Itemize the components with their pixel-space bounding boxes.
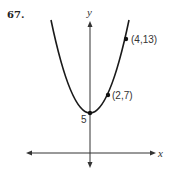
- x-axis-label: x: [157, 147, 163, 159]
- y-intercept-label: 5: [81, 114, 87, 125]
- x-axis-left-arrow-icon: [26, 151, 32, 156]
- point-2-7: [106, 93, 110, 97]
- y-axis: [88, 21, 93, 168]
- x-axis: [26, 151, 156, 156]
- point-4-13-label: (4,13): [131, 34, 157, 45]
- x-axis-right-arrow-icon: [150, 151, 156, 156]
- y-axis-label: y: [86, 6, 92, 18]
- vertex-point: [88, 111, 92, 115]
- point-2-7-label: (2,7): [112, 90, 133, 101]
- point-4-13: [124, 37, 128, 41]
- y-axis-down-arrow-icon: [88, 162, 93, 168]
- y-axis-up-arrow-icon: [88, 21, 93, 27]
- parabola-graph: y x 5 (2,7) (4,13): [0, 0, 171, 177]
